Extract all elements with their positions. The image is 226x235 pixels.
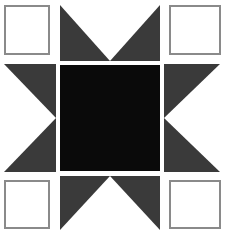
dark-panel-top — [60, 5, 160, 61]
cell-top-center — [57, 0, 163, 62]
cell-bottom-right — [163, 174, 226, 235]
black-square-shape — [60, 65, 160, 171]
left-triangle-icon — [164, 64, 220, 172]
down-triangle-icon — [60, 5, 160, 61]
dark-panel-bottom — [60, 176, 160, 230]
cell-top-right — [163, 0, 226, 62]
white-square-shape — [4, 180, 50, 229]
up-triangle-icon — [60, 176, 160, 230]
cell-middle-right — [163, 62, 226, 174]
cell-bottom-center — [57, 174, 163, 235]
pattern-grid — [0, 0, 226, 235]
white-square-shape — [169, 180, 221, 229]
cell-top-left — [0, 0, 57, 62]
dark-panel-right — [164, 64, 220, 172]
cell-center — [57, 62, 163, 174]
right-triangle-icon — [4, 64, 56, 172]
cell-bottom-left — [0, 174, 57, 235]
quilt-block-pattern — [0, 0, 226, 235]
cell-middle-left — [0, 62, 57, 174]
white-square-shape — [4, 5, 50, 55]
dark-panel-left — [4, 64, 56, 172]
white-square-shape — [169, 5, 221, 55]
